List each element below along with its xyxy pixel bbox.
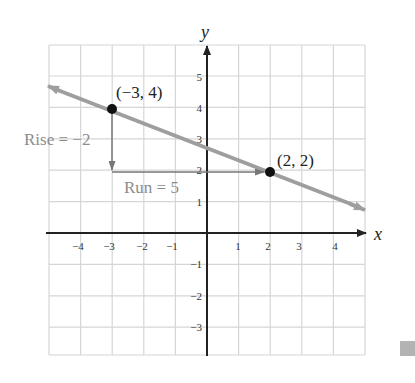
y-tick-label: −2: [190, 290, 202, 302]
point-label-neg3-4: (−3, 4): [116, 83, 162, 102]
corner-badge: [400, 341, 415, 356]
y-tick-label: −1: [190, 258, 202, 270]
coordinate-graph: x y −4 −3 −2 −1 1 2 3 4 5 4 3 2 1 −1 −2 …: [0, 0, 415, 383]
x-tick-label: −4: [72, 240, 84, 252]
run-label: Run = 5: [124, 178, 179, 197]
y-tick-label: −3: [190, 321, 202, 333]
x-tick-label: −2: [136, 240, 148, 252]
y-tick-label: 2: [197, 164, 203, 176]
point-2-2: [265, 167, 275, 177]
graphed-line-body: [55, 89, 356, 206]
point-label-2-2: (2, 2): [277, 151, 314, 170]
x-tick-label: 1: [235, 240, 241, 252]
y-tick-label: 1: [197, 196, 203, 208]
x-tick-label: −1: [166, 240, 178, 252]
x-axis-label: x: [373, 224, 382, 244]
x-tick-label: 3: [296, 240, 302, 252]
x-tick-label: 2: [265, 240, 271, 252]
x-tick-labels: −4 −3 −2 −1 1 2 3 4: [72, 240, 338, 252]
y-axis-label: y: [199, 22, 209, 42]
graphed-line-end: [350, 204, 365, 210]
x-tick-label: −3: [103, 240, 115, 252]
y-tick-label: 4: [197, 102, 203, 114]
x-tick-label: 4: [332, 240, 338, 252]
y-tick-label: 5: [197, 71, 203, 83]
point-neg3-4: [107, 104, 117, 114]
rise-label: Rise = −2: [24, 130, 90, 149]
